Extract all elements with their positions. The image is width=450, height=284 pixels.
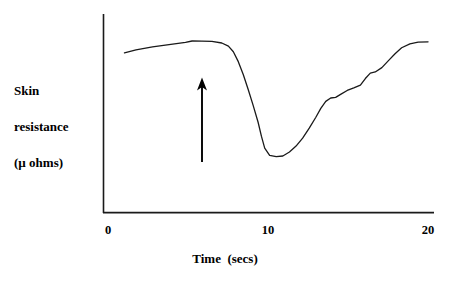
x-tick-label-10: 10 [255,224,281,237]
chart-figure: Skin resistance (µ ohms) 0 10 20 Time (s… [0,0,450,284]
axis-lines [103,14,434,213]
data-series-line [124,41,428,157]
x-axis-label: Time (secs) [0,252,450,265]
x-tick-label-0: 0 [98,224,118,237]
stimulus-arrow-annotation [197,78,207,162]
x-tick-label-20: 20 [415,224,441,237]
plot-area [0,0,450,284]
